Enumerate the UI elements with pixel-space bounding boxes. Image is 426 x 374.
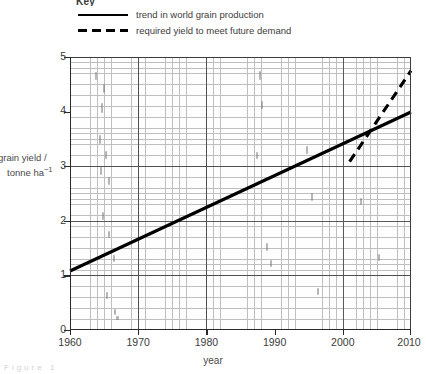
y-axis-label-line1: grain yield / (0, 152, 47, 163)
y-tick-label-0: 0 (46, 323, 66, 335)
legend-solid-line-icon (76, 9, 130, 21)
legend-entry-trend: trend in world grain production (76, 7, 406, 22)
x-tick-mark-1990 (275, 330, 276, 335)
x-axis-label: year (0, 355, 426, 366)
legend-label-trend: trend in world grain production (136, 9, 264, 20)
y-tick-label-4: 4 (46, 104, 66, 116)
x-tick-label-1960: 1960 (50, 336, 90, 348)
grain-yield-figure: Key trend in world grain production requ… (0, 0, 426, 374)
y-tick-label-2: 2 (46, 214, 66, 226)
series-trend-line (70, 112, 411, 271)
chart-legend: Key trend in world grain production requ… (76, 0, 406, 38)
x-tick-label-1980: 1980 (186, 336, 226, 348)
plot-area (70, 57, 411, 330)
x-tick-label-2010: 2010 (389, 336, 426, 348)
plot-frame-left (70, 57, 71, 330)
plot-frame-top (70, 57, 411, 58)
y-tick-label-3: 3 (46, 159, 66, 171)
y-tick-label-1: 1 (46, 268, 66, 280)
y-tick-label-5: 5 (46, 50, 66, 62)
x-tick-label-2000: 2000 (323, 336, 363, 348)
legend-entry-required: required yield to meet future demand (76, 23, 406, 38)
legend-label-required: required yield to meet future demand (136, 25, 291, 36)
x-tick-mark-1960 (70, 330, 71, 335)
plot-frame-right (410, 57, 411, 330)
x-tick-mark-2010 (410, 330, 411, 335)
x-tick-mark-1970 (138, 330, 139, 335)
x-tick-mark-1980 (206, 330, 207, 335)
x-tick-label-1970: 1970 (118, 336, 158, 348)
x-tick-mark-2000 (343, 330, 344, 335)
series-lines (70, 57, 411, 330)
legend-title: Key (76, 0, 406, 6)
x-tick-label-1990: 1990 (255, 336, 295, 348)
legend-dashed-line-icon (76, 25, 130, 37)
figure-caption: Figure 1 (4, 363, 57, 372)
plot-frame-bottom (70, 329, 411, 330)
